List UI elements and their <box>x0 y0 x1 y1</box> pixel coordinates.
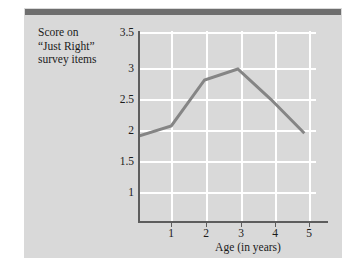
y-tick-label-1: 1 <box>100 187 134 198</box>
figure-top-rule <box>25 9 341 15</box>
y-tick-label-1.5: 1.5 <box>100 156 134 167</box>
y-tick-label-2.5: 2.5 <box>100 94 134 105</box>
data-series-line <box>138 31 316 222</box>
x-axis-label: Age (in years) <box>178 241 318 253</box>
y-tick-label-3.5: 3.5 <box>100 27 134 38</box>
x-tick-label-1: 1 <box>162 228 180 239</box>
x-tick-label-5: 5 <box>300 228 318 239</box>
x-tick-label-4: 4 <box>266 228 284 239</box>
x-tick-label-3: 3 <box>232 228 250 239</box>
x-tick-label-2: 2 <box>197 228 215 239</box>
x-axis-spine <box>138 221 328 223</box>
y-tick-label-2: 2 <box>100 125 134 136</box>
y-tick-label-3: 3 <box>100 63 134 74</box>
y-axis-spine <box>138 31 140 223</box>
y-axis-label-line-2: “Just Right” <box>38 40 110 54</box>
